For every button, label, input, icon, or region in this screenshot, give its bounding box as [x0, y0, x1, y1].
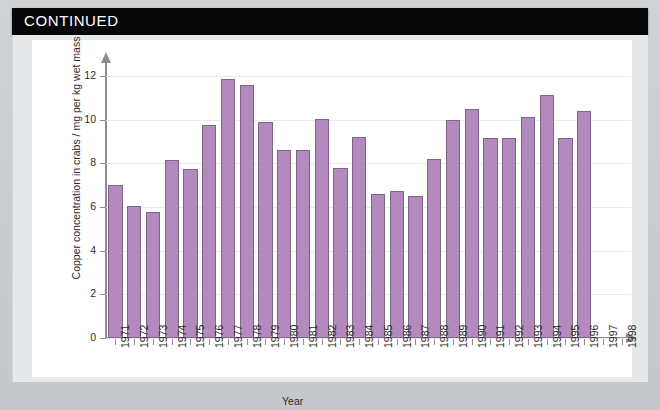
bar [165, 160, 179, 338]
y-tick-label: 4 [70, 244, 96, 256]
y-tick-label: 0 [70, 331, 96, 343]
y-tick-label: 8 [70, 156, 96, 168]
x-tick-mark [434, 339, 435, 345]
x-tick-mark [603, 339, 604, 345]
x-tick-mark [528, 339, 529, 345]
y-tick-label: 12 [70, 69, 96, 81]
bar [577, 111, 591, 338]
x-tick-label: 1977 [232, 325, 244, 348]
x-tick-mark [622, 339, 623, 345]
x-tick-label: 1978 [251, 325, 263, 348]
x-tick-mark [247, 339, 248, 345]
x-tick-mark [265, 339, 266, 345]
x-tick-label: 1995 [569, 325, 581, 348]
x-tick-mark [190, 339, 191, 345]
bar [240, 85, 254, 338]
x-tick-label: 1983 [344, 325, 356, 348]
x-tick-label: 1985 [382, 325, 394, 348]
x-tick-mark [153, 339, 154, 345]
bar [127, 206, 141, 338]
x-tick-mark [134, 339, 135, 345]
x-tick-mark [415, 339, 416, 345]
x-tick-mark [172, 339, 173, 345]
x-tick-label: 1988 [438, 325, 450, 348]
x-tick-mark [397, 339, 398, 345]
x-tick-label: 1980 [288, 325, 300, 348]
x-tick-mark [340, 339, 341, 345]
figure-panel: Copper concentration in crabs / mg per k… [32, 40, 632, 377]
bar [483, 138, 497, 338]
x-tick-mark [322, 339, 323, 345]
x-tick-label: 1976 [213, 325, 225, 348]
y-tick-label: 6 [70, 200, 96, 212]
bar [183, 169, 197, 338]
x-tick-mark [359, 339, 360, 345]
x-tick-mark [303, 339, 304, 345]
x-tick-mark [472, 339, 473, 345]
x-tick-mark [584, 339, 585, 345]
x-tick-label: 1973 [157, 325, 169, 348]
x-tick-label: 1991 [494, 325, 506, 348]
x-tick-mark [115, 339, 116, 345]
x-tick-mark [453, 339, 454, 345]
bar [408, 196, 422, 338]
x-tick-label: 1984 [363, 325, 375, 348]
bar [558, 138, 572, 338]
x-tick-label: 1974 [176, 325, 188, 348]
bar [371, 194, 385, 338]
x-tick-mark [378, 339, 379, 345]
x-tick-label: 1993 [532, 325, 544, 348]
bar [146, 212, 160, 338]
x-tick-label: 1994 [551, 325, 563, 348]
x-tick-label: 1979 [269, 325, 281, 348]
x-tick-label: 1971 [119, 325, 131, 348]
gridline [106, 76, 631, 77]
y-axis-arrowhead [101, 52, 111, 63]
figure-panel-frame: Copper concentration in crabs / mg per k… [12, 35, 648, 382]
bar [277, 150, 291, 338]
x-tick-mark [547, 339, 548, 345]
x-tick-label: 1975 [194, 325, 206, 348]
bar [540, 95, 554, 338]
x-tick-label: 1990 [476, 325, 488, 348]
x-tick-label: 1992 [513, 325, 525, 348]
continued-header-bar: CONTINUED [12, 8, 648, 35]
plot-area [106, 76, 631, 338]
bar [333, 168, 347, 338]
bar [446, 120, 460, 338]
bar [465, 109, 479, 338]
bar [352, 137, 366, 338]
bar [296, 150, 310, 338]
x-tick-label: 1987 [419, 325, 431, 348]
bar [502, 138, 516, 338]
y-tick-label: 2 [70, 287, 96, 299]
bar-chart: Copper concentration in crabs / mg per k… [32, 40, 632, 377]
x-tick-mark [209, 339, 210, 345]
x-tick-label: 1982 [326, 325, 338, 348]
bar [258, 122, 272, 338]
x-tick-label: 1972 [138, 325, 150, 348]
bar [108, 185, 122, 338]
x-tick-mark [509, 339, 510, 345]
bar [521, 117, 535, 338]
x-tick-label: 1996 [588, 325, 600, 348]
bar [390, 191, 404, 338]
x-axis-label: Year [282, 395, 303, 407]
x-tick-label: 1998 [626, 325, 638, 348]
x-tick-mark [565, 339, 566, 345]
bar [315, 119, 329, 338]
x-tick-mark [284, 339, 285, 345]
bar [221, 79, 235, 338]
bar [427, 159, 441, 338]
x-tick-mark [490, 339, 491, 345]
bar [202, 125, 216, 338]
x-tick-label: 1986 [401, 325, 413, 348]
x-tick-label: 1997 [607, 325, 619, 348]
x-tick-label: 1981 [307, 325, 319, 348]
y-tick-label: 10 [70, 113, 96, 125]
page-background: CONTINUED Copper concentration in crabs … [0, 0, 660, 410]
x-tick-label: 1989 [457, 325, 469, 348]
x-tick-mark [228, 339, 229, 345]
